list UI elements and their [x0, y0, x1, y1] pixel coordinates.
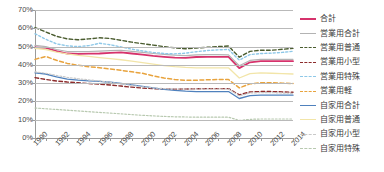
- x-axis-tick: [164, 138, 165, 141]
- y-axis-tick-label: 30%: [3, 79, 33, 87]
- x-axis-tick: [110, 138, 111, 141]
- legend-swatch-icon: [300, 134, 316, 135]
- legend-swatch-icon: [300, 62, 316, 63]
- y-axis-tick-label: 10%: [3, 116, 33, 124]
- legend-label: 営業用普通: [320, 43, 360, 53]
- legend-swatch-icon: [300, 91, 316, 92]
- x-axis-tick: [207, 138, 208, 141]
- series-line: [35, 73, 293, 99]
- gridline: [35, 28, 293, 29]
- series-line: [35, 108, 293, 120]
- y-axis-tick: [31, 101, 35, 102]
- gridline: [35, 101, 293, 102]
- y-axis-tick: [31, 10, 35, 11]
- x-axis-tick: [153, 138, 154, 141]
- legend-item[interactable]: 自家用普通: [300, 113, 384, 127]
- gridline: [35, 65, 293, 66]
- gridline: [35, 83, 293, 84]
- series-line: [35, 28, 293, 58]
- legend-item[interactable]: 自家用特殊: [300, 142, 384, 156]
- legend-item[interactable]: 営業用普通: [300, 41, 384, 55]
- y-axis-labels: 0%10%20%30%40%50%60%70%: [0, 0, 33, 172]
- legend-label: 自家用特殊: [320, 144, 360, 154]
- legend-label: 営業用軽: [320, 86, 352, 96]
- x-axis-tick: [100, 138, 101, 141]
- legend-item[interactable]: 営業用特殊: [300, 70, 384, 84]
- y-axis-tick: [31, 65, 35, 66]
- legend-item[interactable]: 営業用合計: [300, 26, 384, 40]
- y-axis-tick-label: 40%: [3, 61, 33, 69]
- x-axis-tick: [229, 138, 230, 141]
- legend-swatch-icon: [300, 148, 316, 149]
- y-axis-tick-label: 20%: [3, 97, 33, 105]
- legend-label: 自家用小型: [320, 129, 360, 139]
- chart-container: 0%10%20%30%40%50%60%70% 1990199219941996…: [0, 0, 384, 172]
- y-axis-tick-label: 60%: [3, 24, 33, 32]
- x-axis-tick: [175, 138, 176, 141]
- y-axis-tick-label: 50%: [3, 43, 33, 51]
- legend-item[interactable]: 自家用小型: [300, 127, 384, 141]
- legend-swatch-icon: [300, 33, 316, 34]
- legend-item[interactable]: 営業用小型: [300, 55, 384, 69]
- gridline: [35, 10, 293, 11]
- legend-item[interactable]: 自家用合計: [300, 98, 384, 112]
- x-axis-tick: [250, 138, 251, 141]
- gridline: [35, 120, 293, 121]
- x-axis-tick: [282, 138, 283, 141]
- legend-swatch-icon: [300, 119, 316, 120]
- y-axis-tick: [31, 28, 35, 29]
- legend-swatch-icon: [300, 47, 316, 48]
- legend-item[interactable]: 合計: [300, 12, 384, 26]
- y-axis-tick: [31, 83, 35, 84]
- x-axis-tick: [261, 138, 262, 141]
- legend-label: 合計: [320, 14, 336, 24]
- legend-swatch-icon: [300, 76, 316, 77]
- x-axis-tick: [196, 138, 197, 141]
- plot-area: [35, 10, 293, 138]
- x-axis-tick: [272, 138, 273, 141]
- y-axis-tick-label: 0%: [3, 134, 33, 142]
- x-axis-tick: [57, 138, 58, 141]
- y-axis-tick: [31, 120, 35, 121]
- y-axis-tick: [31, 47, 35, 48]
- legend-label: 自家用普通: [320, 115, 360, 125]
- x-axis-tick: [78, 138, 79, 141]
- x-axis-tick: [239, 138, 240, 141]
- legend-label: 営業用合計: [320, 29, 360, 39]
- x-axis-tick: [132, 138, 133, 141]
- legend-item[interactable]: 営業用軽: [300, 84, 384, 98]
- x-axis-tick: [89, 138, 90, 141]
- x-axis-tick: [218, 138, 219, 141]
- x-axis-tick: [121, 138, 122, 141]
- legend-swatch-icon: [300, 105, 316, 106]
- gridline: [35, 47, 293, 48]
- chart-legend: 合計営業用合計営業用普通営業用小型営業用特殊営業用軽自家用合計自家用普通自家用小…: [300, 12, 384, 156]
- legend-swatch-icon: [300, 18, 316, 20]
- x-axis-tick: [186, 138, 187, 141]
- legend-label: 営業用特殊: [320, 72, 360, 82]
- x-axis-tick: [35, 138, 36, 141]
- x-axis-tick: [143, 138, 144, 141]
- y-axis-tick-label: 70%: [3, 6, 33, 14]
- x-axis-tick: [67, 138, 68, 141]
- legend-label: 営業用小型: [320, 57, 360, 67]
- legend-label: 自家用合計: [320, 101, 360, 111]
- x-axis-tick: [293, 138, 294, 141]
- x-axis-tick: [46, 138, 47, 141]
